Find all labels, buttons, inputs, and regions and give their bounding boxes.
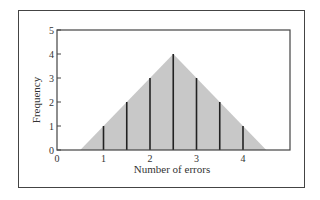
y-tick-label: 1: [49, 121, 54, 132]
x-axis-label: Number of errors: [134, 163, 210, 175]
y-tick-label: 0: [49, 145, 54, 156]
y-tick-label: 3: [49, 73, 54, 84]
y-axis-label: Frequency: [30, 76, 42, 123]
x-tick-label: 1: [101, 153, 106, 164]
y-tick-label: 2: [49, 97, 54, 108]
chart: 012345 01234 Number of errors Frequency: [0, 0, 320, 200]
y-tick-label: 5: [49, 25, 54, 36]
y-axis-ticks: 012345: [49, 25, 61, 156]
x-tick-label: 4: [241, 153, 246, 164]
x-tick-label: 0: [55, 153, 60, 164]
y-tick-label: 4: [49, 49, 54, 60]
